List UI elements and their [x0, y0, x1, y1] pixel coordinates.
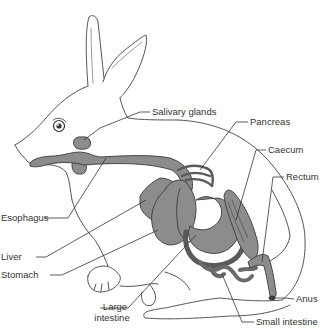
label-pancreas: Pancreas — [250, 116, 290, 127]
rabbit-eye — [53, 118, 66, 131]
label-stomach: Stomach — [1, 269, 39, 280]
label-caecum: Caecum — [268, 144, 303, 155]
rabbit-digestive-diagram — [0, 0, 330, 331]
label-anus: Anus — [296, 293, 318, 304]
digestive-organs — [30, 137, 276, 300]
label-large-intestine: Large intestine — [90, 301, 140, 323]
label-large-intestine-line2: intestine — [84, 312, 140, 323]
rabbit-hind-leg — [268, 190, 290, 262]
label-liver: Liver — [1, 251, 22, 262]
label-esophagus: Esophagus — [1, 212, 49, 223]
label-large-intestine-line1: Large — [90, 301, 140, 312]
label-salivary-glands: Salivary glands — [152, 106, 216, 117]
label-rectum: Rectum — [286, 171, 319, 182]
rabbit-ear-back — [86, 16, 104, 86]
salivary-glands — [73, 137, 90, 149]
label-small-intestine: Small intestine — [256, 316, 318, 327]
rabbit-ear-front — [103, 35, 147, 98]
